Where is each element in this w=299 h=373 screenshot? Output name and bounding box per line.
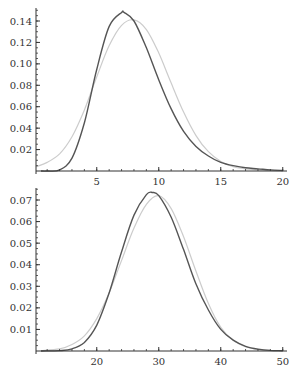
y-tick-label: 0.06 <box>10 101 32 112</box>
y-tick-label: 0.02 <box>10 144 32 155</box>
x-tick-label: 5 <box>94 176 100 187</box>
y-tick-label: 0.04 <box>10 123 32 134</box>
y-tick-label: 0.12 <box>10 37 32 48</box>
x-tick-label: 20 <box>90 356 103 367</box>
y-tick-label: 0.07 <box>10 195 32 206</box>
top-chart-panel: 0.020.040.060.080.100.120.145101520 <box>10 8 289 187</box>
y-tick-label: 0.10 <box>10 58 32 69</box>
x-tick-label: 10 <box>152 176 165 187</box>
y-tick-label: 0.06 <box>10 216 32 227</box>
light-curve <box>36 20 283 171</box>
dark-curve <box>41 192 283 351</box>
x-tick-label: 30 <box>152 356 165 367</box>
y-tick-label: 0.01 <box>10 324 32 335</box>
x-tick-label: 15 <box>214 176 227 187</box>
chart-canvas: 0.020.040.060.080.100.120.145101520 0.01… <box>0 0 299 373</box>
light-curve <box>41 196 283 351</box>
y-tick-label: 0.02 <box>10 302 32 313</box>
bottom-chart-panel: 0.010.020.030.040.050.060.0720304050 <box>10 188 289 367</box>
y-tick-label: 0.14 <box>10 16 32 27</box>
x-tick-label: 50 <box>276 356 289 367</box>
dark-curve <box>41 11 283 171</box>
y-tick-label: 0.03 <box>10 281 32 292</box>
x-tick-label: 20 <box>276 176 289 187</box>
y-tick-label: 0.04 <box>10 259 32 270</box>
y-tick-label: 0.08 <box>10 80 32 91</box>
x-tick-label: 40 <box>214 356 227 367</box>
y-tick-label: 0.05 <box>10 238 32 249</box>
